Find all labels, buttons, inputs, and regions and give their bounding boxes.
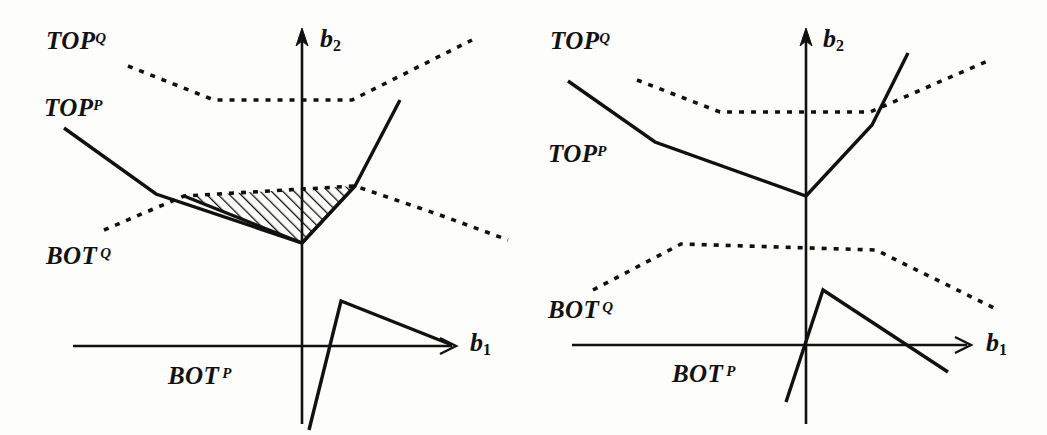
axis-label-b1-left: b1 — [470, 330, 491, 358]
label-top-q-right-base: TOP — [550, 27, 599, 54]
curve-top-q-left — [128, 40, 472, 100]
left-diagram-svg — [0, 0, 523, 435]
axis-label-b2-right-sub: 2 — [836, 37, 844, 54]
axis-label-b2-left-sub: 2 — [333, 37, 341, 54]
label-bot-q-right-sup: Q — [602, 299, 613, 315]
curve-top-p-right — [568, 53, 908, 196]
axis-label-b1-right: b1 — [986, 330, 1007, 358]
label-bot-q-right-base: BOT — [548, 296, 599, 323]
label-top-p-left: TOPP — [44, 95, 103, 120]
label-bot-q-left: BOTQ — [46, 243, 111, 268]
label-bot-q-right: BOTQ — [548, 297, 613, 322]
label-bot-q-left-base: BOT — [46, 242, 97, 269]
label-top-p-left-base: TOP — [44, 94, 93, 121]
label-bot-p-left-sup: P — [222, 365, 231, 381]
axis-label-b1-right-sub: 1 — [999, 341, 1007, 358]
label-top-q-left: TOPQ — [46, 28, 106, 53]
axis-label-b2-left-base: b — [320, 24, 333, 53]
label-top-p-right-base: TOP — [548, 140, 597, 167]
left-diagram-panel: TOPQ TOPP BOTQ BOTP b2 b1 — [0, 0, 523, 435]
label-top-p-left-sup: P — [93, 97, 102, 113]
label-top-q-left-base: TOP — [46, 27, 95, 54]
axis-label-b2-right-base: b — [823, 24, 836, 53]
axis-label-b1-left-base: b — [470, 328, 483, 357]
label-bot-p-left-base: BOT — [168, 362, 219, 389]
label-top-p-right-sup: P — [597, 143, 606, 159]
label-top-q-right: TOPQ — [550, 28, 610, 53]
label-top-q-right-sup: Q — [599, 30, 610, 46]
label-top-q-left-sup: Q — [95, 30, 106, 46]
axis-label-b2-right: b2 — [823, 26, 844, 54]
label-bot-q-left-sup: Q — [100, 245, 111, 261]
label-bot-p-left: BOTP — [168, 363, 231, 388]
label-top-p-right: TOPP — [548, 141, 607, 166]
curve-top-p-left — [64, 100, 400, 243]
curve-bot-p-left — [309, 301, 452, 430]
curve-top-q-right — [637, 60, 990, 112]
axis-label-b1-left-sub: 1 — [483, 341, 491, 358]
label-bot-p-right: BOTP — [672, 361, 735, 386]
right-diagram-svg — [523, 0, 1047, 435]
label-bot-p-right-sup: P — [726, 363, 735, 379]
right-diagram-panel: TOPQ TOPP BOTQ BOTP b2 b1 — [523, 0, 1047, 435]
figure-container: TOPQ TOPP BOTQ BOTP b2 b1 — [0, 0, 1047, 435]
axis-label-b1-right-base: b — [986, 328, 999, 357]
label-bot-p-right-base: BOT — [672, 360, 723, 387]
axis-label-b2-left: b2 — [320, 26, 341, 54]
curve-bot-q-right — [593, 244, 994, 308]
